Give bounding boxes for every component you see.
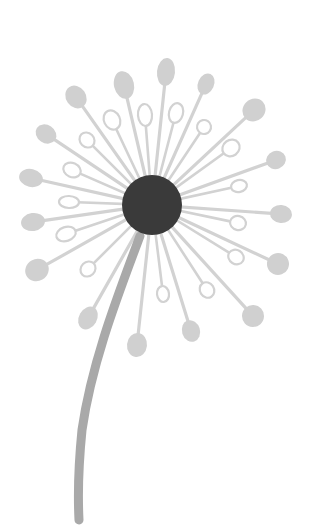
- hollow-seed-icon: [59, 196, 79, 209]
- filled-seed-icon: [61, 81, 91, 112]
- hollow-seed-icon: [229, 215, 248, 232]
- filled-seed-icon: [32, 120, 60, 147]
- hollow-seed-icon: [230, 178, 248, 193]
- hollow-seed-icon: [101, 108, 124, 133]
- hollow-seed-icon: [197, 279, 217, 300]
- filled-seed-icon: [111, 69, 137, 101]
- hollow-seed-icon: [54, 224, 77, 244]
- filled-seed-icon: [264, 148, 289, 172]
- dandelion-center: [122, 175, 182, 235]
- hollow-seed-icon: [226, 247, 247, 267]
- dandelion-illustration: [0, 0, 315, 527]
- filled-seed-icon: [156, 57, 177, 87]
- filled-seed-icon: [21, 255, 53, 286]
- hollow-seed-icon: [167, 102, 186, 125]
- filled-seed-icon: [20, 211, 46, 232]
- hollow-seed-icon: [137, 103, 153, 126]
- hollow-seed-icon: [156, 285, 170, 302]
- hollow-seed-icon: [61, 160, 83, 180]
- filled-seed-icon: [74, 303, 101, 333]
- filled-seed-icon: [17, 167, 44, 190]
- filled-seed-icon: [269, 204, 292, 223]
- filled-seed-icon: [263, 249, 292, 278]
- filled-seed-icon: [126, 332, 148, 358]
- hollow-seed-icon: [194, 117, 213, 136]
- filled-seed-icon: [179, 318, 203, 344]
- filled-seed-icon: [194, 71, 218, 98]
